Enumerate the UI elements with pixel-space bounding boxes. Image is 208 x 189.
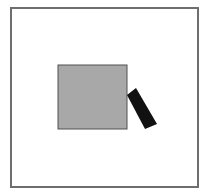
gray-square bbox=[58, 65, 127, 129]
diagram-canvas bbox=[0, 0, 208, 189]
